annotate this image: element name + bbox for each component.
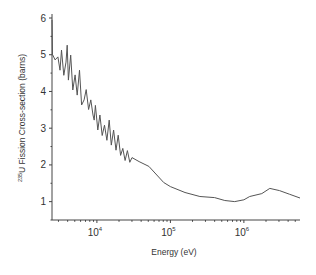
series-line: [52, 20, 300, 202]
y-tick-label: 4: [40, 86, 46, 97]
y-axis: 123456: [40, 13, 52, 221]
y-tick-label: 1: [40, 196, 46, 207]
x-tick-label: 106: [235, 226, 250, 238]
x-axis: 104105106: [52, 220, 300, 238]
y-tick-label: 3: [40, 123, 46, 134]
y-tick-label: 2: [40, 159, 46, 170]
y-tick-label: 6: [40, 13, 46, 24]
chart: 123456 104105106 Energy (eV) 235U Fissio…: [0, 0, 316, 275]
x-tick-label: 105: [161, 226, 176, 238]
x-axis-title: Energy (eV): [151, 247, 197, 257]
plot-area: [52, 20, 300, 202]
x-tick-label: 104: [88, 226, 103, 238]
y-axis-title-text: U Fission Cross-section (barns): [17, 54, 27, 173]
y-tick-label: 5: [40, 49, 46, 60]
y-axis-title-superscript: 235: [17, 173, 23, 182]
y-axis-title: 235U Fission Cross-section (barns): [17, 54, 27, 182]
